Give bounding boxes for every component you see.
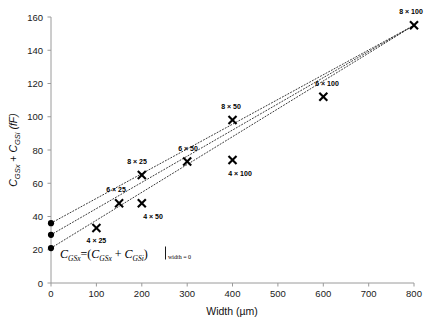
y-tick-label-20: 20 <box>32 244 43 255</box>
y-tick-label-100: 100 <box>27 111 43 122</box>
y-title-c2-sub: GSi <box>13 132 22 145</box>
eq-r1-sub: GSx <box>99 254 112 263</box>
fit-line-50um <box>51 25 414 235</box>
intercept-dot-25um[interactable] <box>48 245 54 251</box>
y-title-c1-sub: GSx <box>13 164 22 179</box>
point-label-8x25: 8 × 25 <box>127 158 147 165</box>
y-tick-label-140: 140 <box>27 45 43 56</box>
point-label-4x100: 4 × 100 <box>228 170 252 177</box>
x-axis-title: Width (µm) <box>206 305 258 317</box>
x-tick-label-400: 400 <box>225 288 241 299</box>
point-label-8x50: 8 × 50 <box>221 103 241 110</box>
data-point-6x50[interactable] <box>183 158 191 166</box>
data-point-4x100[interactable] <box>229 156 237 164</box>
scatter-plot: 0 20 40 60 80 100 120 140 160 0 100 200 … <box>0 0 431 321</box>
point-label-8x100: 8 × 100 <box>399 8 423 15</box>
fit-lines-group <box>51 25 414 248</box>
y-tick-label-0: 0 <box>38 278 43 289</box>
chart-container: 0 20 40 60 80 100 120 140 160 0 100 200 … <box>0 0 431 321</box>
fit-line-100um <box>51 25 414 223</box>
x-tick-label-0: 0 <box>48 288 53 299</box>
x-tick-label-200: 200 <box>134 288 150 299</box>
intercept-points-group <box>48 220 54 251</box>
svg-text:CGSx=(CGSx + CGSi): CGSx=(CGSx + CGSi) <box>60 247 148 263</box>
y-title-unit: (fF) <box>7 113 19 132</box>
x-tick-label-800: 800 <box>406 288 422 299</box>
data-point-8x50[interactable] <box>229 116 237 124</box>
y-tick-label-80: 80 <box>32 145 43 156</box>
svg-text:CGSx + CGSi (fF): CGSx + CGSi (fF) <box>7 113 22 187</box>
x-tick-label-500: 500 <box>270 288 286 299</box>
y-tick-label-40: 40 <box>32 211 43 222</box>
point-label-6x25: 6 × 25 <box>106 186 126 193</box>
y-title-plus: + <box>7 153 19 162</box>
x-tick-label-600: 600 <box>315 288 331 299</box>
eq-bar-subscript: width = 0 <box>168 254 191 260</box>
intercept-equation: CGSx=(CGSx + CGSi) width = 0 <box>60 247 191 263</box>
data-point-4x50[interactable] <box>138 199 146 207</box>
intercept-dot-50um[interactable] <box>48 232 54 238</box>
point-label-6x100: 6 × 100 <box>315 80 339 87</box>
x-tick-label-700: 700 <box>361 288 377 299</box>
data-point-6x100[interactable] <box>319 93 327 101</box>
fit-line-25um <box>51 25 414 248</box>
x-tick-label-100: 100 <box>88 288 104 299</box>
y-tick-label-160: 160 <box>27 12 43 23</box>
data-point-8x100[interactable] <box>410 21 418 29</box>
x-axis-ticks: 0 100 200 300 400 500 600 700 800 <box>48 283 422 299</box>
point-label-4x25: 4 × 25 <box>87 237 107 244</box>
point-label-4x50: 4 × 50 <box>143 213 163 220</box>
y-axis-ticks: 0 20 40 60 80 100 120 140 160 <box>27 12 51 289</box>
data-point-6x25[interactable] <box>115 199 123 207</box>
data-point-4x25[interactable] <box>92 224 100 232</box>
y-tick-label-120: 120 <box>27 78 43 89</box>
eq-close-paren: ) <box>144 247 148 261</box>
intercept-dot-100um[interactable] <box>48 220 54 226</box>
y-axis-title: CGSx + CGSi (fF) <box>7 113 22 187</box>
eq-r2-sub: GSi <box>133 254 144 263</box>
point-label-6x50: 6 × 50 <box>178 145 198 152</box>
y-tick-label-60: 60 <box>32 178 43 189</box>
x-tick-label-300: 300 <box>179 288 195 299</box>
eq-lhs-sub: GSx <box>68 254 81 263</box>
